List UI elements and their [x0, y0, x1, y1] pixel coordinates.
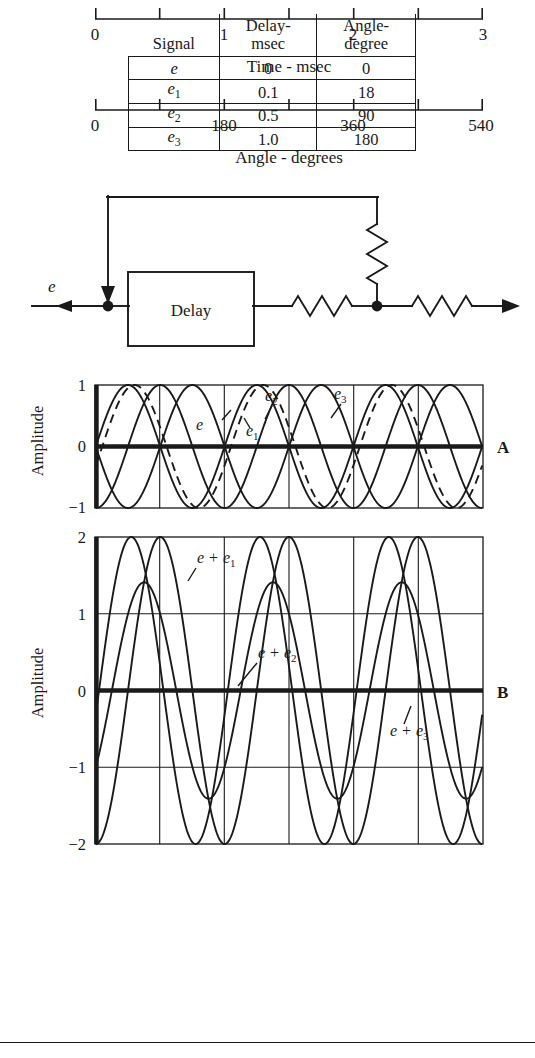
- input-arrow-icon: [56, 300, 72, 312]
- cell-signal: e: [129, 57, 220, 80]
- leader-e2: [265, 406, 272, 419]
- shunt-resistor: [367, 224, 387, 284]
- panel-b-ytick-neg2: −2: [68, 835, 86, 854]
- col-header-delay: Delay- msec: [220, 14, 317, 57]
- col-header-signal: Signal: [129, 14, 220, 57]
- col-header-angle-line2: degree: [321, 35, 411, 53]
- table-body: e00e10.118e20.590e31.0180: [129, 57, 416, 151]
- label-curve-e: e: [196, 416, 203, 433]
- series-resistor-1: [292, 296, 352, 316]
- panel-a-ytick-0: 0: [78, 437, 86, 456]
- col-header-angle-line1: Angle-: [321, 17, 411, 35]
- col-header-signal-label: Signal: [133, 35, 216, 53]
- angle-tick-0: 0: [91, 116, 100, 135]
- figure-root: Signal Delay- msec Angle- degree e00e10.…: [0, 0, 535, 1058]
- cell-signal: e3: [129, 127, 220, 151]
- cell-delay: 0: [220, 57, 317, 80]
- cell-delay: 0.5: [220, 104, 317, 128]
- signal-delay-table: Signal Delay- msec Angle- degree e00e10.…: [128, 14, 416, 151]
- cell-delay: 0.1: [220, 80, 317, 104]
- panel-a-letter: A: [497, 438, 509, 458]
- panel-b-yticks: 2 1 0 −1 −2: [68, 528, 86, 854]
- circuit-diagram: e Delay: [0, 188, 535, 338]
- panel-b-letter: B: [497, 683, 508, 703]
- cell-signal: e2: [129, 104, 220, 128]
- panel-b-ylabel: Amplitude: [28, 633, 48, 733]
- cell-delay: 1.0: [220, 127, 317, 151]
- time-tick-3: 3: [479, 25, 488, 44]
- panel-b-ytick-2: 2: [78, 528, 86, 547]
- col-header-delay-line1: Delay-: [224, 17, 312, 35]
- col-header-delay-line2: msec: [224, 35, 312, 53]
- delay-block-label: Delay: [171, 301, 212, 320]
- table-row: e31.0180: [129, 127, 416, 151]
- panel-a-curve-labels: e e1 e2 e3: [196, 385, 347, 442]
- panel-a-ytick-neg1: −1: [68, 498, 86, 517]
- label-curve-e2: e2: [265, 387, 278, 407]
- panel-a-yticks: 1 0 −1: [68, 376, 86, 517]
- cell-angle: 18: [317, 80, 416, 104]
- angle-tick-540: 540: [468, 116, 494, 135]
- table-row: e20.590: [129, 104, 416, 128]
- leader-e3: [331, 404, 341, 418]
- panel-a-ylabel: Amplitude: [28, 391, 48, 491]
- feedback-arrow-icon: [101, 286, 115, 304]
- time-tick-0: 0: [91, 25, 100, 44]
- cell-angle: 0: [317, 57, 416, 80]
- leader-e: [222, 410, 231, 420]
- panel-b-ytick-neg1: −1: [68, 758, 86, 777]
- leader-e-plus-e1: [188, 568, 196, 581]
- cell-angle: 180: [317, 127, 416, 151]
- panel-a-ytick-1: 1: [78, 376, 86, 395]
- panel-b: 2 1 0 −1 −2 e + e1 e + e2 e + e3 Amplitu…: [0, 528, 535, 853]
- output-arrow-icon: [502, 299, 520, 313]
- cell-signal: e1: [129, 80, 220, 104]
- circuit-input-label: e: [48, 277, 56, 296]
- series-resistor-2: [412, 296, 472, 316]
- bottom-rule: [0, 1042, 535, 1043]
- table-row: e00: [129, 57, 416, 80]
- panel-b-ytick-0: 0: [78, 682, 86, 701]
- label-curve-e-plus-e3: e + e3: [390, 722, 429, 742]
- label-curve-e-plus-e1: e + e1: [197, 549, 236, 569]
- parameter-table: Signal Delay- msec Angle- degree e00e10.…: [128, 14, 416, 151]
- col-header-angle: Angle- degree: [317, 14, 416, 57]
- panel-a: 1 0 −1 e e1 e2 e3 Amplitude A: [0, 368, 535, 518]
- table-row: e10.118: [129, 80, 416, 104]
- panel-b-ytick-1: 1: [78, 605, 86, 624]
- table-head: Signal Delay- msec Angle- degree: [129, 14, 416, 57]
- leader-e-plus-e2: [238, 663, 257, 686]
- table-header-row: Signal Delay- msec Angle- degree: [129, 14, 416, 57]
- label-curve-e-plus-e2: e + e2: [258, 644, 297, 664]
- cell-angle: 90: [317, 104, 416, 128]
